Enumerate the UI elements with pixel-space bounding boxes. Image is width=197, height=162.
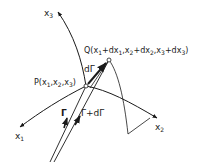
p-label-part: P(x bbox=[34, 78, 47, 87]
point-p-label: P(x1,x2,x3) bbox=[34, 79, 76, 88]
x2-axis-label: x2 bbox=[155, 123, 164, 133]
point-q-label: Q(x1+dx1,x2+dx2,x3+dx3) bbox=[84, 47, 188, 56]
p-label-part: ,x bbox=[51, 78, 58, 87]
point-p bbox=[84, 84, 88, 88]
x3-axis-label: x3 bbox=[44, 9, 53, 19]
x1-axis-label: x1 bbox=[15, 132, 24, 142]
x3-label-sub: 3 bbox=[49, 12, 53, 19]
diagram-canvas bbox=[0, 0, 197, 162]
q-label-part: ,x bbox=[122, 46, 129, 55]
vector-r bbox=[50, 86, 86, 162]
vector-r-label: Γ bbox=[61, 109, 67, 118]
vector-r-plus-dr-label: Γ+dΓ bbox=[81, 109, 104, 118]
q-label-part: +dx bbox=[133, 46, 150, 55]
q-label-part: ) bbox=[185, 46, 188, 55]
q-label-part: +dx bbox=[165, 46, 182, 55]
vector-r-plus-dr-arrow bbox=[75, 116, 80, 125]
q-curve bbox=[109, 60, 150, 134]
vector-dr-label: dΓ bbox=[84, 65, 95, 74]
x3-axis bbox=[58, 12, 86, 86]
x1-label-sub: 1 bbox=[20, 135, 24, 142]
p-label-part: ,x bbox=[62, 78, 69, 87]
x2-label-sub: 2 bbox=[160, 126, 164, 133]
q-label-part: Q(x bbox=[84, 46, 98, 55]
q-label-part: ,x bbox=[154, 46, 161, 55]
p-label-part: ) bbox=[73, 78, 76, 87]
q-label-part: +dx bbox=[102, 46, 119, 55]
point-q bbox=[107, 58, 111, 62]
